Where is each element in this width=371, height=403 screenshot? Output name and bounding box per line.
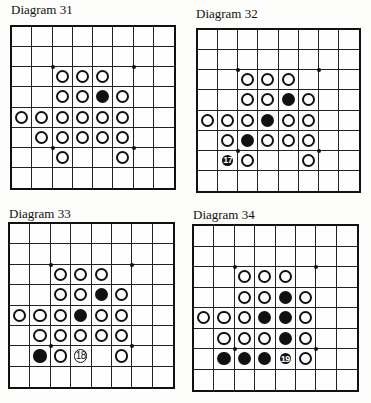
board-square bbox=[53, 87, 73, 107]
board-square bbox=[214, 247, 234, 268]
black-disc bbox=[95, 288, 108, 301]
board-square bbox=[12, 168, 32, 188]
board-square bbox=[279, 131, 299, 151]
board-square bbox=[296, 247, 316, 268]
board-square bbox=[93, 47, 113, 67]
board-square bbox=[238, 111, 258, 131]
board-square bbox=[112, 326, 132, 346]
star-point-marker bbox=[233, 265, 237, 269]
board-square bbox=[30, 367, 50, 387]
black-disc: 17 bbox=[222, 155, 233, 166]
white-disc bbox=[221, 134, 234, 147]
board-square bbox=[92, 306, 112, 326]
board-square bbox=[235, 308, 255, 329]
board-square bbox=[113, 168, 133, 188]
board-square bbox=[276, 329, 296, 350]
board-square bbox=[258, 151, 278, 171]
board-square bbox=[279, 70, 299, 90]
board-square bbox=[319, 111, 339, 131]
black-disc bbox=[33, 349, 46, 362]
board-square bbox=[51, 265, 71, 285]
white-disc bbox=[76, 70, 89, 83]
board-square bbox=[255, 349, 275, 370]
board-square bbox=[296, 267, 316, 288]
board-square bbox=[93, 67, 113, 87]
board-square bbox=[154, 87, 174, 107]
board-square bbox=[30, 265, 50, 285]
board-square bbox=[53, 27, 73, 47]
board-square bbox=[134, 27, 154, 47]
board-square bbox=[154, 47, 174, 67]
board-square bbox=[93, 128, 113, 148]
board-square bbox=[319, 151, 339, 171]
board-square bbox=[316, 349, 336, 370]
white-disc bbox=[217, 332, 230, 345]
board-square bbox=[218, 70, 238, 90]
board-square bbox=[276, 288, 296, 309]
board-square bbox=[276, 267, 296, 288]
board-square bbox=[279, 151, 299, 171]
board-square bbox=[319, 30, 339, 50]
white-disc bbox=[201, 114, 214, 127]
white-disc bbox=[115, 329, 128, 342]
board-square bbox=[279, 90, 299, 110]
board-square bbox=[299, 90, 319, 110]
board-square bbox=[112, 285, 132, 305]
board-square bbox=[235, 247, 255, 268]
white-disc bbox=[282, 114, 295, 127]
board-square bbox=[132, 326, 152, 346]
board-square bbox=[218, 111, 238, 131]
board-square bbox=[153, 224, 173, 244]
board-square bbox=[73, 128, 93, 148]
board-square bbox=[316, 308, 336, 329]
board-square bbox=[32, 168, 52, 188]
white-disc bbox=[197, 311, 210, 324]
white-disc bbox=[13, 309, 26, 322]
star-point-marker bbox=[130, 344, 134, 348]
star-point-marker bbox=[314, 347, 318, 351]
white-disc bbox=[258, 270, 271, 283]
white-disc bbox=[299, 352, 312, 365]
board-square bbox=[30, 306, 50, 326]
board-square bbox=[255, 370, 275, 391]
board-square bbox=[258, 131, 278, 151]
board-square bbox=[92, 244, 112, 264]
board-square bbox=[134, 128, 154, 148]
board-square bbox=[73, 67, 93, 87]
black-disc bbox=[282, 93, 295, 106]
star-point-marker bbox=[132, 146, 136, 150]
board-square bbox=[299, 111, 319, 131]
white-disc bbox=[76, 131, 89, 144]
board-square bbox=[134, 47, 154, 67]
white-disc bbox=[33, 329, 46, 342]
white-disc bbox=[54, 288, 67, 301]
star-point-marker bbox=[236, 68, 240, 72]
board-square bbox=[198, 50, 218, 70]
board-square bbox=[113, 128, 133, 148]
board-square bbox=[299, 30, 319, 50]
white-disc bbox=[116, 111, 129, 124]
black-disc bbox=[238, 352, 251, 365]
board-square bbox=[93, 87, 113, 107]
board-square bbox=[339, 111, 359, 131]
white-disc bbox=[116, 131, 129, 144]
board-square bbox=[337, 370, 357, 391]
black-disc bbox=[258, 352, 271, 365]
white-disc bbox=[76, 111, 89, 124]
white-disc bbox=[299, 332, 312, 345]
board-square bbox=[71, 306, 91, 326]
board-square bbox=[30, 326, 50, 346]
white-disc bbox=[279, 270, 292, 283]
white-disc bbox=[54, 349, 67, 362]
white-disc bbox=[302, 154, 315, 167]
board-square bbox=[12, 148, 32, 168]
board-square bbox=[53, 148, 73, 168]
board-square bbox=[316, 226, 336, 247]
board-square bbox=[258, 70, 278, 90]
board-square: 17 bbox=[218, 151, 238, 171]
white-disc bbox=[238, 311, 251, 324]
white-disc bbox=[238, 291, 251, 304]
board-square bbox=[218, 90, 238, 110]
board-square bbox=[316, 329, 336, 350]
board-square bbox=[255, 329, 275, 350]
